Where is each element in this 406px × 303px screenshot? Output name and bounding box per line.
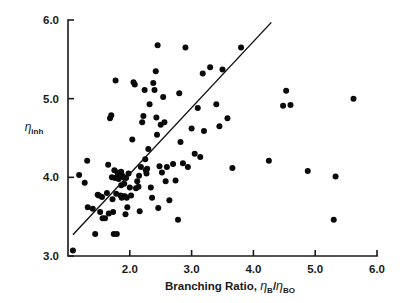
data-point-85 [175, 217, 181, 223]
data-point-57 [139, 119, 145, 125]
data-point-48 [129, 137, 135, 143]
data-point-74 [155, 205, 161, 211]
data-point-26 [114, 231, 120, 237]
data-points [70, 42, 357, 253]
data-point-109 [331, 217, 337, 223]
data-point-88 [180, 160, 186, 166]
scatter-chart-figure: 2.03.04.05.06.0 3.04.05.06.0 ηinh Branch… [0, 0, 406, 303]
data-point-59 [142, 87, 148, 93]
data-point-83 [170, 161, 176, 167]
data-point-105 [280, 103, 286, 109]
data-point-93 [195, 105, 201, 111]
data-point-81 [164, 164, 170, 170]
data-point-66 [148, 185, 154, 191]
y-tick-label-3: 6.0 [43, 14, 59, 26]
data-point-58 [140, 113, 146, 119]
fit-line [73, 22, 271, 234]
data-point-99 [216, 123, 222, 129]
data-point-46 [127, 185, 133, 191]
data-point-52 [134, 178, 140, 184]
data-point-44 [124, 204, 130, 210]
y-axis-label: ηinh [25, 120, 44, 136]
plot-canvas: 2.03.04.05.06.0 3.04.05.06.0 ηinh Branch… [0, 0, 406, 303]
data-point-78 [160, 94, 166, 100]
y-tick-label-0: 3.0 [43, 250, 59, 262]
data-point-108 [305, 168, 311, 174]
data-point-14 [105, 162, 111, 168]
data-point-106 [283, 88, 289, 94]
x-tick-label-2: 4.0 [245, 263, 261, 275]
x-tick-label-0: 2.0 [122, 263, 138, 275]
data-point-47 [128, 192, 134, 198]
data-point-97 [207, 64, 213, 70]
data-point-91 [189, 126, 195, 132]
data-point-73 [155, 42, 161, 48]
x-label-eta-denominator: η [276, 279, 283, 293]
data-point-68 [150, 80, 156, 86]
data-point-95 [200, 70, 206, 76]
data-point-9 [97, 209, 103, 215]
y-tick-label-1: 4.0 [43, 171, 59, 183]
data-point-72 [154, 132, 160, 138]
y-label-subscript: inh [31, 127, 43, 136]
data-point-96 [201, 128, 207, 134]
data-point-53 [135, 184, 141, 190]
x-tick-label-1: 3.0 [184, 263, 200, 275]
data-point-79 [161, 119, 167, 125]
data-point-92 [192, 151, 198, 157]
data-point-67 [149, 195, 155, 201]
data-point-10 [99, 194, 105, 200]
x-label-sub-denominator: BO [283, 286, 295, 295]
data-point-6 [92, 231, 98, 237]
axis-spines [68, 20, 377, 256]
data-point-24 [113, 78, 119, 84]
data-point-71 [153, 115, 159, 121]
data-point-54 [136, 173, 142, 179]
data-point-87 [177, 139, 183, 145]
data-point-3 [84, 158, 90, 164]
axis-ticks [68, 20, 377, 256]
y-tick-label-2: 5.0 [43, 93, 59, 105]
data-point-98 [213, 101, 219, 107]
data-point-12 [102, 215, 108, 221]
data-point-77 [159, 170, 165, 176]
data-point-63 [144, 166, 150, 172]
data-point-17 [108, 112, 114, 118]
x-label-eta-numerator: η [260, 279, 267, 293]
data-point-50 [132, 82, 138, 88]
x-tick-label-4: 6.0 [369, 263, 385, 275]
data-point-1 [76, 172, 82, 178]
data-point-19 [110, 196, 116, 202]
data-point-110 [333, 174, 339, 180]
data-point-69 [152, 87, 158, 93]
data-point-89 [182, 45, 188, 51]
data-point-111 [351, 96, 357, 102]
data-point-2 [82, 180, 88, 186]
data-point-103 [238, 45, 244, 51]
data-point-84 [173, 177, 179, 183]
data-point-90 [185, 164, 191, 170]
regression-line [73, 22, 271, 234]
x-tick-label-3: 5.0 [307, 263, 323, 275]
data-point-55 [137, 208, 143, 214]
data-point-0 [70, 247, 76, 253]
data-point-101 [224, 115, 230, 121]
x-label-prefix: Branching Ratio, [165, 280, 260, 292]
data-point-80 [163, 178, 169, 184]
data-point-104 [266, 158, 272, 164]
data-point-75 [156, 163, 162, 169]
data-point-41 [122, 211, 128, 217]
data-point-70 [153, 68, 159, 74]
axes [68, 20, 377, 256]
x-axis-label: Branching Ratio, ηB/ηBO [165, 279, 295, 295]
data-point-65 [147, 101, 153, 107]
data-point-107 [287, 102, 293, 108]
x-axis-tick-labels: 2.03.04.05.06.0 [122, 263, 385, 275]
data-point-86 [176, 90, 182, 96]
y-axis-tick-labels: 3.04.05.06.0 [43, 14, 59, 262]
data-point-20 [110, 209, 116, 215]
data-point-94 [197, 154, 203, 160]
data-point-82 [166, 197, 172, 203]
data-point-102 [229, 165, 235, 171]
